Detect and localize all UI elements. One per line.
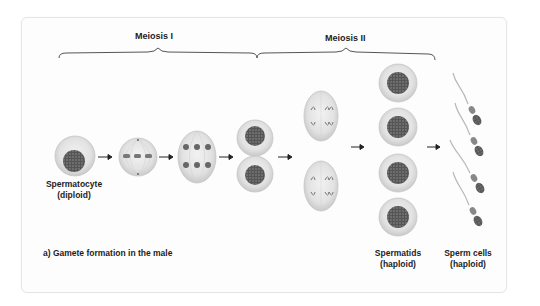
spermatids-name: Spermatids xyxy=(362,248,434,259)
sperm-cells xyxy=(450,73,486,228)
anaphase-2-cells xyxy=(304,91,338,211)
sperm-1 xyxy=(453,73,483,127)
sperm-cells-label: Sperm cells (haploid) xyxy=(432,248,504,270)
anaphase-1-cell xyxy=(178,131,216,183)
arrow-1 xyxy=(98,155,112,160)
metaphase-1-cell xyxy=(119,138,157,176)
spermatocyte-ploidy: (diploid) xyxy=(34,190,114,201)
brace-meiosis-1 xyxy=(59,48,257,58)
spermatocyte-name: Spermatocyte xyxy=(34,179,114,190)
spermatids-ploidy: (haploid) xyxy=(362,259,434,270)
arrow-5 xyxy=(351,145,364,150)
arrow-2 xyxy=(159,155,173,160)
spermatid-cells xyxy=(379,64,417,236)
sperm-cells-ploidy: (haploid) xyxy=(432,259,504,270)
caption: a) Gamete formation in the male xyxy=(43,248,172,259)
arrow-3 xyxy=(219,155,233,160)
brace-meiosis-2 xyxy=(257,48,435,60)
sperm-4 xyxy=(453,172,484,228)
spermatocyte-cell xyxy=(55,136,95,176)
telophase-1-cells xyxy=(237,120,273,192)
spermatids-label: Spermatids (haploid) xyxy=(362,248,434,270)
arrow-6 xyxy=(427,145,440,150)
spermatocyte-label: Spermatocyte (diploid) xyxy=(34,179,114,201)
arrow-4 xyxy=(278,155,292,160)
sperm-cells-name: Sperm cells xyxy=(432,248,504,259)
